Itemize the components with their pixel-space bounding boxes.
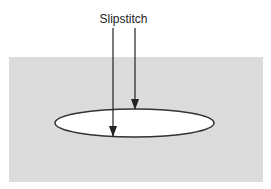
- slipstitch-diagram: Slipstitch: [0, 0, 271, 189]
- opening-ellipse: [55, 109, 214, 137]
- slipstitch-label: Slipstitch: [99, 12, 147, 26]
